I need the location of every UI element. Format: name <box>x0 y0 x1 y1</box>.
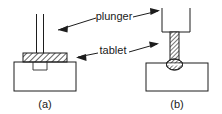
panel-a-caption: (a) <box>38 98 51 110</box>
panel-b-plunger-head <box>162 8 190 32</box>
panel-a-die-cavity <box>33 62 47 70</box>
plunger-annotation: plunger <box>58 8 160 33</box>
panel-a-tablet-layer <box>23 53 67 62</box>
tablet-label: tablet <box>100 44 127 56</box>
tablet-annotation: tablet <box>76 42 159 62</box>
panel-a-die-base <box>14 62 76 91</box>
panel-b-plunger-rod <box>170 32 179 62</box>
panel-b-die-base <box>146 59 208 91</box>
figure-container: (a) (b) <box>0 0 222 114</box>
tablet-compression-diagram: (a) (b) <box>0 0 222 114</box>
plunger-arrowhead-right <box>150 8 160 15</box>
panel-b: (b) <box>146 8 208 110</box>
tablet-arrowhead-left <box>76 54 87 61</box>
plunger-arrowhead-left <box>58 26 68 33</box>
panel-a-plunger-rod <box>37 14 44 53</box>
panel-b-caption: (b) <box>170 98 183 110</box>
plunger-label: plunger <box>96 10 133 22</box>
tablet-arrowhead-right <box>149 42 159 49</box>
